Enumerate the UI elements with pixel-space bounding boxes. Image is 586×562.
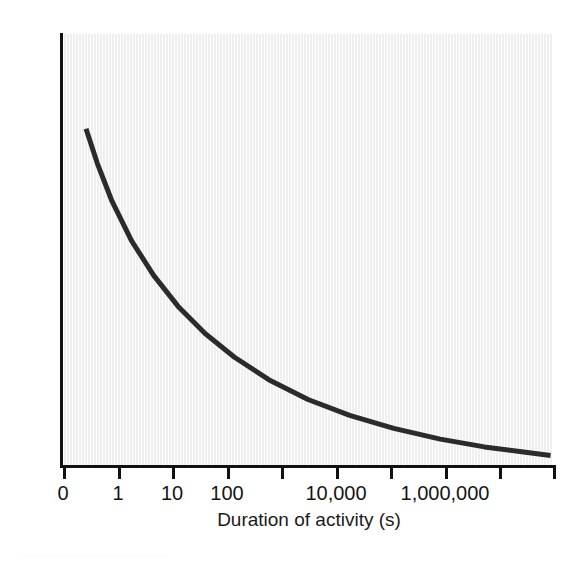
x-axis-baseline: [60, 465, 556, 468]
x-axis-tick-label-7: 1,000,000: [401, 481, 490, 505]
x-axis-tick-labels: 011010010,0001,000,000: [0, 481, 586, 507]
x-axis-tick-label-1: 1: [112, 481, 123, 505]
x-axis-tick-7: [445, 468, 448, 479]
x-axis-tick-label-3: 100: [210, 481, 243, 505]
x-axis-tick-label-0: 0: [57, 481, 68, 505]
x-axis: [60, 465, 556, 481]
x-axis-tick-9: [553, 468, 556, 479]
power-output-curve: [63, 34, 553, 465]
x-axis-tick-3: [227, 468, 230, 479]
x-axis-title: Duration of activity (s): [0, 508, 586, 532]
x-axis-tick-0: [63, 468, 66, 479]
x-axis-tick-6: [390, 468, 393, 479]
x-axis-tick-4: [281, 468, 284, 479]
x-axis-tick-1: [118, 468, 121, 479]
x-axis-tick-5: [336, 468, 339, 479]
x-axis-tick-label-2: 10: [161, 481, 183, 505]
scan-edge-artifact: [18, 556, 168, 559]
x-axis-tick-2: [172, 468, 175, 479]
x-axis-tick-label-5: 10,000: [305, 481, 366, 505]
y-axis-title: Power output: [0, 0, 62, 466]
x-axis-tick-8: [499, 468, 502, 479]
figure-container: Power output 011010010,0001,000,000 Dura…: [0, 0, 586, 562]
plot-area: [63, 34, 553, 465]
curve-polyline: [86, 129, 551, 456]
